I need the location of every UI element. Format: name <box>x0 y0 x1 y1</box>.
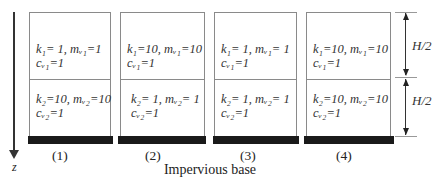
arrow-up-icon <box>403 79 409 86</box>
layer-2-params: k₂= 1, mᵥ₂= 1 cᵥ₂=1 <box>221 92 290 120</box>
impervious-base-2 <box>118 136 206 144</box>
upper-dimension-line <box>405 13 406 75</box>
arrow-down-icon <box>403 128 409 135</box>
layer-2-k-mv: k₂=10, mᵥ₂=10 <box>313 92 388 106</box>
soil-column-2: k₁=10, mᵥ₁=10 cᵥ₁=1 k₂= 1, mᵥ₂= 1 cᵥ₂=1 <box>120 12 205 136</box>
layer-1: k₁= 1, mᵥ₁= 1 cᵥ₁=1 <box>215 13 296 80</box>
layer-1-cv: cᵥ₁=1 <box>36 56 102 70</box>
layer-2-params: k₂=10, mᵥ₂=10 cᵥ₂=1 <box>36 92 111 120</box>
layer-1: k₁= 1, mᵥ₁=1 cᵥ₁=1 <box>30 13 110 80</box>
layer-2: k₂=10, mᵥ₂=10 cᵥ₂=1 <box>30 80 110 136</box>
layer-1: k₁=10, mᵥ₁=10 cᵥ₁=1 <box>121 13 204 80</box>
layer-2-cv: cᵥ₂=1 <box>221 106 290 120</box>
z-axis-arrow-icon <box>9 150 19 159</box>
impervious-base-label: Impervious base <box>0 162 420 178</box>
layer-2-k-mv: k₂=10, mᵥ₂=10 <box>36 92 111 106</box>
layer-1-cv: cᵥ₁=1 <box>221 56 290 70</box>
upper-half-height-label: H/2 <box>412 38 432 54</box>
dimension-tick-bottom <box>395 136 417 137</box>
soil-column-1: k₁= 1, mᵥ₁=1 cᵥ₁=1 k₂=10, mᵥ₂=10 cᵥ₂=1 <box>29 12 111 136</box>
impervious-base-1 <box>28 136 113 144</box>
layer-2-cv: cᵥ₂=1 <box>36 106 111 120</box>
layer-2-k-mv: k₂= 1, mᵥ₂= 1 <box>221 92 290 106</box>
layer-1-params: k₁=10, mᵥ₁=10 cᵥ₁=1 <box>127 42 202 70</box>
arrow-up-icon <box>403 13 409 20</box>
lower-dimension-line <box>405 79 406 135</box>
layer-1-k-mv: k₁= 1, mᵥ₁= 1 <box>221 42 290 56</box>
layer-1-k-mv: k₁=10, mᵥ₁=10 <box>313 42 388 56</box>
soil-column-3: k₁= 1, mᵥ₁= 1 cᵥ₁=1 k₂= 1, mᵥ₂= 1 cᵥ₂=1 <box>214 12 297 136</box>
layer-2-k-mv: k₂= 1, mᵥ₂= 1 <box>131 92 200 106</box>
lower-half-height-label: H/2 <box>412 93 432 109</box>
layer-2-cv: cᵥ₂=1 <box>313 106 388 120</box>
layer-2: k₂= 1, mᵥ₂= 1 cᵥ₂=1 <box>215 80 296 136</box>
layer-1-cv: cᵥ₁=1 <box>127 56 202 70</box>
layer-1-params: k₁=10, mᵥ₁=10 cᵥ₁=1 <box>313 42 388 70</box>
layer-1-k-mv: k₁= 1, mᵥ₁=1 <box>36 42 102 56</box>
layer-2-params: k₂=10, mᵥ₂=10 cᵥ₂=1 <box>313 92 388 120</box>
impervious-base-3 <box>213 136 299 144</box>
layer-1-params: k₁= 1, mᵥ₁= 1 cᵥ₁=1 <box>221 42 290 70</box>
layer-1-params: k₁= 1, mᵥ₁=1 cᵥ₁=1 <box>36 42 102 70</box>
layer-1-k-mv: k₁=10, mᵥ₁=10 <box>127 42 202 56</box>
dimension-tick-middle <box>395 77 417 78</box>
layer-2-cv: cᵥ₂=1 <box>131 106 200 120</box>
z-axis-line <box>13 12 15 152</box>
layer-2-params: k₂= 1, mᵥ₂= 1 cᵥ₂=1 <box>131 92 200 120</box>
soil-column-4: k₁=10, mᵥ₁=10 cᵥ₁=1 k₂=10, mᵥ₂=10 cᵥ₂=1 <box>306 12 391 136</box>
impervious-base-4 <box>304 136 394 144</box>
layer-2: k₂=10, mᵥ₂=10 cᵥ₂=1 <box>307 80 390 136</box>
layer-1-cv: cᵥ₁=1 <box>313 56 388 70</box>
layer-1: k₁=10, mᵥ₁=10 cᵥ₁=1 <box>307 13 390 80</box>
layer-2: k₂= 1, mᵥ₂= 1 cᵥ₂=1 <box>121 80 204 136</box>
arrow-down-icon <box>403 69 409 76</box>
